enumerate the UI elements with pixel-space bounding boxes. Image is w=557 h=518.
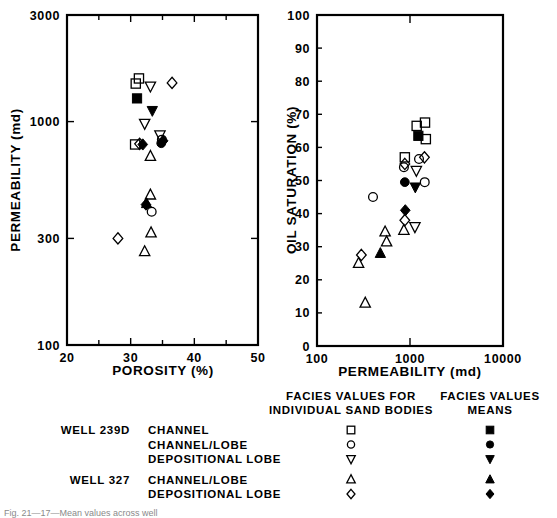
left-plot-y-axis-title: PERMEABILITY (md)	[8, 108, 23, 251]
left-y-tick-label: 3000	[30, 9, 60, 23]
legend-open-symbol-diamond	[347, 489, 355, 498]
data-point-triangle-up-open	[145, 150, 155, 160]
left-y-tick-label: 1000	[30, 115, 60, 129]
data-point-square-filled	[132, 94, 141, 103]
data-point-circle-open	[369, 193, 378, 202]
data-point-diamond-open	[420, 152, 430, 163]
figure-caption: Fig. 21—17—Mean values across well	[4, 508, 158, 518]
right-y-tick-label: 80	[295, 75, 310, 89]
left-plot-tick-labels: 2030405010030010003000	[30, 9, 266, 366]
legend-header-means-line1: FACIES VALUES	[440, 390, 540, 402]
data-point-triangle-down-open	[140, 119, 150, 129]
legend-filled-symbol-triangle-down	[486, 456, 495, 464]
data-point-triangle-up-open	[140, 246, 150, 256]
data-point-diamond-open	[400, 215, 410, 226]
data-point-circle-open	[147, 207, 156, 216]
right-y-tick-label: 20	[295, 273, 310, 287]
right-x-tick-label: 10000	[484, 352, 522, 366]
data-point-triangle-down-open	[145, 82, 155, 92]
right-plot-tick-labels: 1001000100000102030405060708090100	[287, 9, 522, 367]
data-point-triangle-down-filled	[410, 183, 420, 193]
left-x-tick-label: 20	[59, 351, 74, 365]
legend-open-symbol-square	[347, 426, 355, 434]
left-plot: 2030405010030010003000 PERMEABILITY (md)…	[8, 9, 266, 379]
data-point-triangle-up-open	[146, 227, 156, 237]
legend-open-symbol-triangle-up	[347, 475, 356, 483]
data-point-diamond-filled	[400, 205, 410, 216]
data-point-diamond-open	[167, 77, 177, 88]
left-plot-x-axis-title: POROSITY (%)	[112, 363, 213, 378]
data-point-triangle-up-open	[399, 224, 409, 234]
left-plot-frame	[67, 15, 258, 345]
legend-filled-symbol-triangle-up	[486, 475, 495, 483]
data-point-square-filled	[414, 131, 423, 140]
data-point-triangle-down-open	[410, 223, 420, 233]
data-point-circle-filled	[400, 178, 409, 187]
legend-filled-symbol-diamond	[486, 489, 494, 498]
legend: FACIES VALUES FOR INDIVIDUAL SAND BODIES…	[61, 390, 540, 500]
left-x-tick-label: 50	[250, 351, 265, 365]
legend-header-individual-line2: INDIVIDUAL SAND BODIES	[269, 404, 433, 416]
legend-rows: WELL 239DCHANNELCHANNEL/LOBEDEPOSITIONAL…	[61, 424, 495, 500]
legend-facies-label: CHANNEL/LOBE	[148, 439, 248, 451]
data-point-triangle-up-open	[380, 226, 390, 236]
data-point-triangle-up-open	[381, 236, 391, 246]
data-point-triangle-up-filled	[375, 248, 385, 258]
data-point-circle-open	[415, 155, 424, 164]
right-plot-frame	[317, 15, 503, 346]
right-y-tick-label: 90	[295, 42, 310, 56]
right-y-tick-label: 0	[302, 340, 310, 354]
legend-filled-symbol-square	[486, 426, 494, 434]
legend-well-label: WELL 327	[70, 474, 130, 486]
data-point-triangle-up-open	[360, 297, 370, 307]
right-y-tick-label: 100	[287, 9, 310, 23]
legend-header-individual-line1: FACIES VALUES FOR	[286, 390, 416, 402]
data-point-diamond-open	[113, 233, 123, 244]
left-y-tick-label: 300	[37, 232, 60, 246]
legend-facies-label: DEPOSITIONAL LOBE	[148, 488, 281, 500]
legend-well-label: WELL 239D	[61, 424, 130, 436]
figure-svg: 2030405010030010003000 PERMEABILITY (md)…	[0, 0, 557, 518]
right-plot-x-axis-title: PERMEABILITY (md)	[338, 364, 481, 379]
legend-header-means-line2: MEANS	[467, 404, 512, 416]
legend-facies-label: CHANNEL/LOBE	[148, 474, 248, 486]
right-y-tick-label: 10	[295, 306, 310, 320]
data-point-triangle-down-filled	[147, 106, 157, 116]
right-x-tick-label: 100	[306, 352, 329, 366]
left-plot-axes	[67, 15, 258, 345]
data-point-triangle-down-open	[411, 166, 421, 176]
left-plot-data-points	[113, 74, 177, 256]
legend-facies-label: DEPOSITIONAL LOBE	[148, 453, 281, 465]
right-plot-y-axis-title: OIL SATURATION (%)	[284, 106, 299, 254]
left-y-tick-label: 100	[37, 339, 60, 353]
right-plot-data-points	[353, 118, 430, 307]
right-plot: 1001000100000102030405060708090100 OIL S…	[284, 9, 522, 380]
data-point-circle-open	[420, 178, 429, 187]
right-plot-axes	[317, 15, 503, 346]
legend-open-symbol-circle	[347, 441, 354, 448]
legend-filled-symbol-circle	[486, 441, 493, 448]
legend-open-symbol-triangle-down	[347, 456, 356, 464]
figure-container: 2030405010030010003000 PERMEABILITY (md)…	[0, 0, 557, 518]
data-point-square-open	[400, 153, 409, 162]
legend-facies-label: CHANNEL	[148, 424, 209, 436]
